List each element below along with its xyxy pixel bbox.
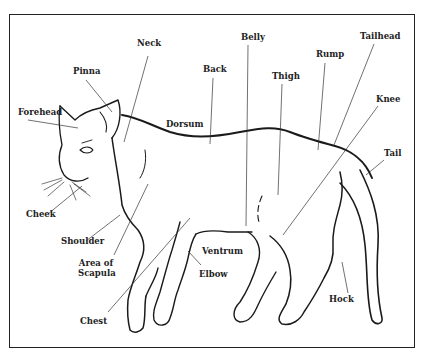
label-knee: Knee [376,95,400,104]
label-chest: Chest [80,317,107,326]
label-back: Back [203,65,227,74]
label-rump: Rump [316,50,344,59]
label-ventrum: Ventrum [202,247,243,256]
cat-illustration [0,0,426,362]
label-thigh: Thigh [272,72,300,81]
label-belly: Belly [241,33,265,42]
label-shoulder: Shoulder [61,237,104,246]
label-tail: Tail [384,149,401,158]
label-area-of-scapula-line2: Scapula [78,268,116,278]
label-pinna: Pinna [73,67,101,76]
label-neck: Neck [137,39,161,48]
label-cheek: Cheek [26,210,56,219]
label-dorsum: Dorsum [166,120,203,129]
label-area-of-scapula: Area of Scapula [78,259,114,279]
label-area-of-scapula-line1: Area of [79,258,113,268]
label-elbow: Elbow [199,270,228,279]
label-tailhead: Tailhead [360,32,401,41]
label-forehead: Forehead [18,108,62,117]
label-hock: Hock [329,295,354,304]
